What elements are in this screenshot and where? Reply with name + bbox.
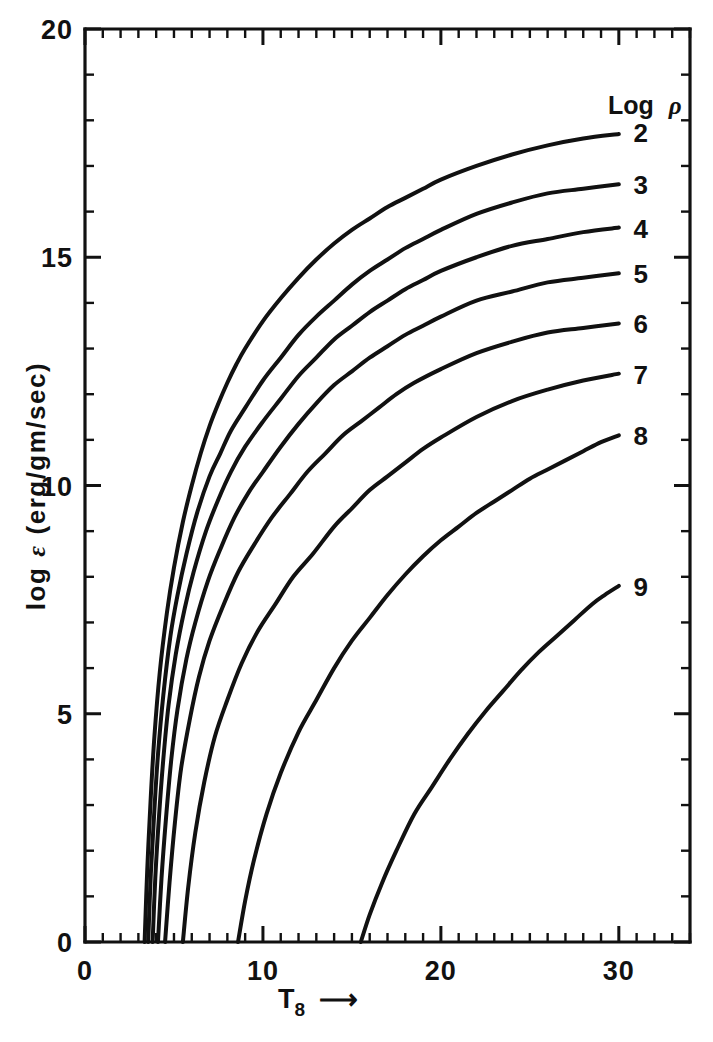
y-tick-label: 5 [57,700,73,730]
tick-labels: 010203005101520 [41,15,635,986]
series-labels: 23456789 [634,118,649,602]
svg-text:T8⟶: T8⟶ [278,984,358,1020]
chart-plot: 010203005101520 23456789 Log ρ T8⟶ logε(… [0,0,713,1042]
x-tick-label: 0 [77,956,93,986]
curve-log-rho-9 [361,586,619,942]
curve-label-8: 8 [634,421,648,451]
x-axis-title-text: T [278,984,295,1014]
y-tick-label: 15 [41,243,73,273]
curve-label-3: 3 [634,170,648,200]
y-axis-title: logε(erg/gm/sec) [21,362,51,610]
x-axis-title: T8⟶ [278,984,358,1020]
y-tick-label: 20 [41,15,73,45]
curve-log-rho-5 [158,273,619,942]
curve-log-rho-8 [238,435,619,942]
curve-label-6: 6 [634,309,648,339]
curve-label-7: 7 [634,360,648,390]
curve-label-9: 9 [634,572,648,602]
curve-label-4: 4 [634,214,649,244]
curve-label-2: 2 [634,118,648,148]
y-tick-label: 0 [57,928,73,958]
curve-label-5: 5 [634,259,648,289]
figure-container: 010203005101520 23456789 Log ρ T8⟶ logε(… [0,0,713,1042]
curve-log-rho-2 [145,134,619,942]
x-tick-label: 30 [603,956,635,986]
svg-text:Log ρ: Log ρ [608,91,682,119]
rho-symbol: ρ [668,92,682,119]
y-axis-title-prefix: log [21,567,51,611]
curve-log-rho-6 [165,323,619,942]
x-tick-label: 20 [425,956,457,986]
y-axis-title-units: (erg/gm/sec) [21,362,51,535]
legend-title: Log ρ [608,91,682,119]
x-axis-arrow-icon: ⟶ [319,984,358,1014]
x-tick-label: 10 [247,956,279,986]
x-axis-title-subscript: 8 [294,999,305,1020]
curve-log-rho-7 [183,374,619,942]
svg-text:logε(erg/gm/sec): logε(erg/gm/sec) [21,362,51,610]
data-curves [145,134,619,942]
epsilon-symbol: ε [22,544,51,556]
legend-title-text: Log [608,91,654,119]
curve-log-rho-4 [153,228,619,942]
curve-log-rho-3 [148,184,619,942]
